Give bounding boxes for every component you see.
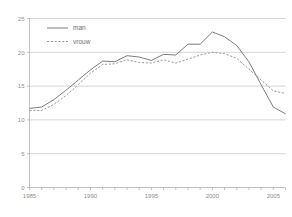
x-tick-label: 1990	[84, 193, 98, 199]
chart-canvas: 0510152025 19851990199520002005 manvrouw	[0, 0, 292, 217]
series-line-vrouw	[30, 52, 286, 110]
x-axis-tick-labels: 19851990199520002005	[23, 193, 281, 199]
series-lines	[30, 32, 286, 114]
y-tick-label: 25	[18, 16, 25, 22]
y-tick-label: 15	[18, 83, 25, 89]
x-tick-label: 1985	[23, 193, 37, 199]
x-tick-marks	[30, 188, 286, 191]
y-tick-label: 5	[21, 151, 25, 157]
x-tick-label: 1995	[145, 193, 159, 199]
x-tick-label: 2000	[206, 193, 220, 199]
y-tick-marks	[27, 19, 30, 188]
legend-label-vrouw: vrouw	[73, 38, 91, 45]
legend-label-man: man	[73, 24, 86, 31]
chart-legend: manvrouw	[47, 24, 91, 45]
series-line-man	[30, 32, 286, 114]
line-chart: 0510152025 19851990199520002005 manvrouw	[0, 0, 292, 217]
gridlines	[30, 19, 286, 154]
x-tick-label: 2005	[267, 193, 281, 199]
y-tick-label: 10	[18, 117, 25, 123]
y-tick-label: 0	[21, 185, 25, 191]
y-tick-label: 20	[18, 50, 25, 56]
y-axis-tick-labels: 0510152025	[18, 16, 25, 191]
